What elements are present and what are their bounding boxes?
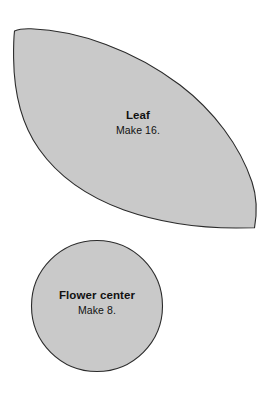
pattern-shapes-canvas (0, 0, 273, 398)
leaf-quantity: Make 16. (88, 125, 188, 136)
flower-center-quantity: Make 8. (37, 305, 157, 316)
leaf-title: Leaf (88, 110, 188, 122)
pattern-template-sheet: Leaf Make 16. Flower center Make 8. (0, 0, 273, 398)
flower-center-label: Flower center Make 8. (37, 290, 157, 315)
leaf-label: Leaf Make 16. (88, 110, 188, 135)
flower-center-title: Flower center (37, 290, 157, 302)
